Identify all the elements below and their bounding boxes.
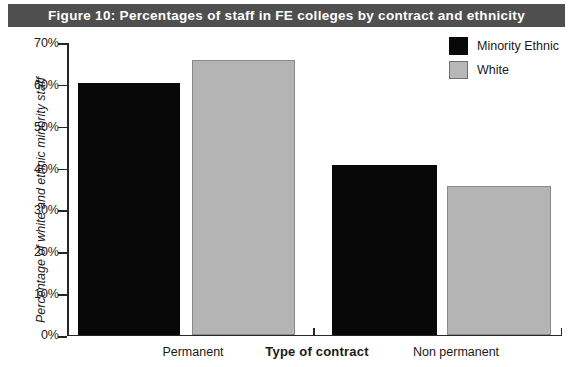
x-axis-category-separator-tick [313, 328, 315, 336]
y-axis-label-40: 40% [0, 163, 59, 176]
y-axis-tick-60 [58, 85, 67, 87]
bar-non-permanent-white [447, 186, 551, 335]
x-axis-label-permanent: Permanent [128, 345, 258, 359]
y-axis-label-0: 0% [0, 329, 59, 342]
y-axis-tick-70 [58, 43, 67, 45]
x-axis-line [67, 335, 562, 337]
plot-area: 70% 60% 50% 40% 30% 20% 10% 0% [67, 43, 562, 336]
page-title: Figure 10: Percentages of staff in FE co… [48, 8, 525, 23]
bar-permanent-white [192, 60, 295, 334]
y-axis-tick-40 [58, 169, 67, 171]
x-axis-end-tick [561, 328, 563, 336]
y-axis-tick-50 [58, 127, 67, 129]
y-axis-label-50: 50% [0, 121, 59, 134]
x-axis-title: Type of contract [242, 344, 392, 359]
y-axis-label-20: 20% [0, 246, 59, 259]
y-axis-title: Percentage of white and ethnic minority … [34, 55, 48, 345]
y-axis-tick-0 [58, 336, 67, 338]
y-axis-line [67, 43, 69, 336]
y-axis-label-30: 30% [0, 204, 59, 217]
y-axis-label-60: 60% [0, 79, 59, 92]
y-axis-tick-10 [58, 294, 67, 296]
y-axis-label-10: 10% [0, 288, 59, 301]
bar-permanent-minority-ethnic [78, 83, 180, 334]
x-axis-label-non-permanent: Non permanent [386, 345, 526, 359]
y-axis-tick-30 [58, 210, 67, 212]
bar-non-permanent-minority-ethnic [332, 165, 437, 335]
y-axis-label-70: 70% [0, 37, 59, 50]
figure-title-band: Figure 10: Percentages of staff in FE co… [8, 4, 565, 27]
y-axis-tick-20 [58, 252, 67, 254]
